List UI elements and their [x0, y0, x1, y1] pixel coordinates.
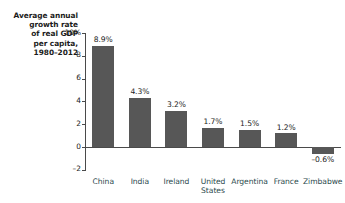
bar-united-states[interactable]: 1.7%: [202, 25, 224, 175]
gdp-growth-bar-chart: Average annual growth rate of real GDP p…: [0, 0, 345, 203]
y-tick-label: 0: [76, 142, 81, 151]
bar-value-label: 4.3%: [122, 87, 158, 96]
y-tick-mark: [82, 101, 86, 102]
y-tick-label: 8: [76, 50, 81, 59]
bar-rect: [275, 133, 297, 147]
bar-zimbabwe[interactable]: –0.6%: [312, 25, 334, 175]
bar-ireland[interactable]: 3.2%: [165, 25, 187, 175]
bar-rect: [239, 130, 261, 147]
plot-area: 10%86420–2 8.9%4.3%3.2%1.7%1.5%1.2%–0.6%…: [85, 25, 341, 175]
bar-france[interactable]: 1.2%: [275, 25, 297, 175]
y-tick-label: 4: [76, 96, 81, 105]
bar-argentina[interactable]: 1.5%: [239, 25, 261, 175]
bar-india[interactable]: 4.3%: [129, 25, 151, 175]
chart-title-line-4: per capita,: [4, 39, 78, 48]
bar-value-label: 1.2%: [268, 123, 304, 132]
y-tick-mark: [82, 170, 86, 171]
y-tick-label: 10%: [65, 28, 81, 37]
y-tick-label: 2: [76, 119, 81, 128]
bar-value-label: 3.2%: [158, 100, 194, 109]
y-tick-label: 6: [76, 73, 81, 82]
bar-rect: [312, 147, 334, 154]
y-tick-label: –2: [73, 164, 81, 173]
bar-value-label: 8.9%: [85, 35, 121, 44]
y-tick-mark: [82, 124, 86, 125]
y-tick-mark: [82, 33, 86, 34]
bar-rect: [92, 46, 114, 147]
bar-value-label: –0.6%: [305, 155, 341, 164]
y-tick-mark: [82, 147, 86, 148]
bar-value-label: 1.5%: [232, 119, 268, 128]
chart-title-line-1: Average annual: [4, 11, 78, 20]
bar-china[interactable]: 8.9%: [92, 25, 114, 175]
chart-title-line-5: 1980–2012: [4, 48, 78, 57]
bar-value-label: 1.7%: [195, 117, 231, 126]
bar-rect: [202, 128, 224, 147]
bar-rect: [129, 98, 151, 147]
y-tick-mark: [82, 56, 86, 57]
category-label-zimbabwe: Zimbabwe: [301, 177, 344, 186]
bar-rect: [165, 111, 187, 147]
y-tick-mark: [82, 79, 86, 80]
